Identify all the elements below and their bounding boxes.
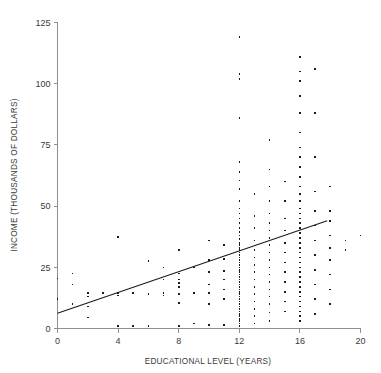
data-point — [239, 117, 241, 119]
data-point — [239, 267, 241, 269]
data-point — [178, 249, 180, 251]
data-point — [163, 279, 165, 281]
data-point — [269, 267, 271, 269]
data-point — [314, 313, 316, 315]
data-point — [239, 296, 241, 298]
data-point — [223, 324, 225, 326]
data-point — [299, 237, 301, 239]
regression-line — [58, 221, 328, 314]
data-point — [299, 271, 301, 273]
data-point — [239, 306, 241, 308]
data-point — [239, 171, 241, 173]
data-point — [239, 293, 241, 295]
data-point — [299, 276, 301, 278]
data-point — [178, 293, 180, 295]
data-point — [178, 282, 180, 284]
data-point — [299, 257, 301, 259]
tick-labels: 0481216200255075100125 — [35, 18, 365, 346]
data-point — [269, 244, 271, 246]
data-point — [87, 306, 89, 308]
data-point — [239, 279, 241, 281]
data-point — [208, 324, 210, 326]
data-point — [117, 236, 119, 238]
data-point — [254, 271, 256, 273]
data-point — [299, 262, 301, 264]
data-point — [329, 220, 331, 222]
data-point — [117, 295, 119, 297]
data-point — [345, 249, 347, 251]
data-point — [208, 284, 210, 286]
data-point — [299, 247, 301, 249]
data-point — [269, 139, 271, 141]
data-point — [239, 313, 241, 315]
data-point — [132, 292, 134, 294]
data-point — [254, 193, 256, 195]
data-point — [299, 315, 301, 317]
data-point — [163, 292, 165, 294]
x-tick-label: 0 — [55, 336, 60, 346]
data-point — [239, 257, 241, 259]
x-tick-label: 16 — [295, 336, 305, 346]
data-point — [254, 286, 256, 288]
data-point — [284, 218, 286, 220]
y-tick-label: 75 — [40, 140, 50, 150]
data-point — [102, 292, 104, 294]
data-point — [299, 80, 301, 82]
y-tick-label: 25 — [40, 263, 50, 273]
data-point — [239, 235, 241, 237]
data-point — [57, 278, 59, 280]
data-point — [269, 312, 271, 314]
data-point — [299, 186, 301, 188]
data-point — [87, 292, 89, 294]
data-point — [87, 317, 89, 319]
data-point — [239, 308, 241, 310]
data-point — [299, 213, 301, 215]
data-point — [223, 244, 225, 246]
data-point — [299, 227, 301, 229]
data-point — [299, 132, 301, 134]
y-tick-label: 0 — [45, 324, 50, 334]
data-point — [284, 281, 286, 283]
data-point — [269, 222, 271, 224]
data-point — [269, 259, 271, 261]
data-point — [299, 286, 301, 288]
data-point — [239, 73, 241, 75]
data-point — [254, 308, 256, 310]
data-point — [299, 311, 301, 313]
data-point — [163, 267, 165, 269]
x-tick-label: 4 — [116, 336, 121, 346]
data-point — [254, 264, 256, 266]
x-tick-label: 12 — [234, 336, 244, 346]
data-point — [239, 291, 241, 293]
chart-canvas: 0481216200255075100125 EDUCATIONAL LEVEL… — [0, 0, 381, 373]
data-point — [329, 186, 331, 188]
data-point — [269, 281, 271, 283]
data-point — [329, 274, 331, 276]
data-point — [329, 235, 331, 237]
data-point — [299, 176, 301, 178]
data-point — [239, 254, 241, 256]
data-point — [178, 273, 180, 275]
data-point — [72, 273, 74, 275]
data-point — [314, 210, 316, 212]
data-point — [239, 218, 241, 220]
data-point — [239, 311, 241, 313]
data-point — [314, 254, 316, 256]
data-point — [299, 296, 301, 298]
data-point — [284, 200, 286, 202]
data-point — [208, 292, 210, 294]
data-point — [72, 284, 74, 286]
data-point — [314, 156, 316, 158]
data-point — [299, 320, 301, 322]
x-tick-label: 20 — [355, 336, 365, 346]
data-point — [178, 325, 180, 327]
data-point — [299, 232, 301, 234]
data-point — [239, 188, 241, 190]
data-point — [239, 264, 241, 266]
data-point — [284, 271, 286, 273]
data-point — [239, 325, 241, 327]
data-point — [239, 259, 241, 261]
data-point — [329, 259, 331, 261]
data-point — [239, 200, 241, 202]
x-tick-label: 8 — [176, 336, 181, 346]
